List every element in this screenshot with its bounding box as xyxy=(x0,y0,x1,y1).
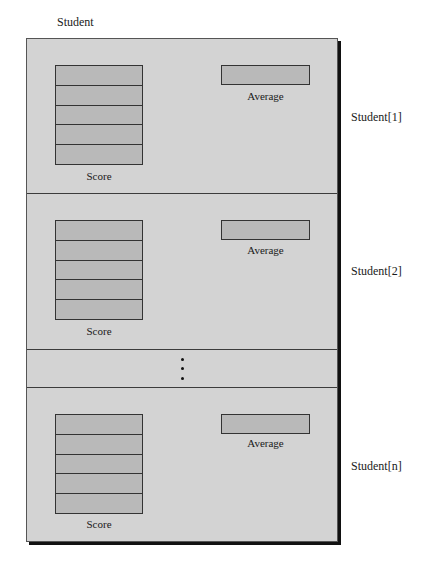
score-cell xyxy=(56,86,142,106)
score-cell xyxy=(56,145,142,164)
score-cell xyxy=(56,435,142,455)
score-cell xyxy=(56,455,142,475)
ellipsis-section xyxy=(27,350,337,388)
average-field xyxy=(221,414,310,434)
score-label: Score xyxy=(55,518,143,530)
score-cell xyxy=(56,125,142,145)
record-label-1: Student[1] xyxy=(351,110,402,125)
score-cell xyxy=(56,241,142,261)
score-cell xyxy=(56,300,142,319)
average-field xyxy=(221,65,310,85)
score-cell xyxy=(56,66,142,86)
score-cell xyxy=(56,280,142,300)
record-label-2: Student[2] xyxy=(351,264,402,279)
average-label: Average xyxy=(221,244,310,256)
average-label: Average xyxy=(221,90,310,102)
student-record-1: Score Average xyxy=(27,39,337,194)
score-array xyxy=(55,65,143,165)
score-array xyxy=(55,414,143,514)
struct-array-title: Student xyxy=(57,15,94,30)
score-label: Score xyxy=(55,325,143,337)
average-field xyxy=(221,220,310,240)
student-record-2: Score Average xyxy=(27,194,337,349)
score-label: Score xyxy=(55,170,143,182)
score-cell xyxy=(56,494,142,513)
score-array xyxy=(55,220,143,320)
score-cell xyxy=(56,106,142,126)
score-cell xyxy=(56,415,142,435)
score-cell xyxy=(56,221,142,241)
student-array-container: Score Average Score Average xyxy=(26,38,338,542)
score-cell xyxy=(56,474,142,494)
average-label: Average xyxy=(221,437,310,449)
record-label-n: Student[n] xyxy=(351,459,402,474)
student-record-n: Score Average xyxy=(27,388,337,541)
score-cell xyxy=(56,261,142,281)
